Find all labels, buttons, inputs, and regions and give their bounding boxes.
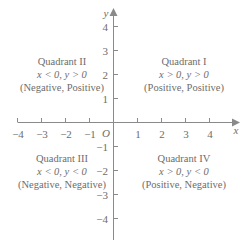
quadrant-4-math: x > 0, y < 0 [142,165,226,178]
x-tick-label--1: −1 [84,129,96,140]
quadrant-1-name: Quadrant I [144,55,224,68]
x-tick-label--3: −3 [36,129,48,140]
x-tick-label-4: 4 [207,129,213,140]
quadrant-1-signs: (Positive, Positive) [144,81,224,94]
quadrant-2-math: x < 0, y > 0 [20,68,104,81]
x-tick-label-1: 1 [135,129,141,140]
quadrant-3-math: x < 0, y < 0 [18,165,106,178]
x-tick-label--4: −4 [12,129,24,140]
y-axis-arrowhead [110,8,118,16]
y-tick-label--3: −3 [96,190,108,201]
quadrant-2-name: Quadrant II [20,55,104,68]
x-axis-label: x [234,125,239,136]
y-tick-label--4: −4 [96,214,108,225]
quadrant-2-annotation: Quadrant II x < 0, y > 0 (Negative, Posi… [20,55,104,94]
quadrant-4-name: Quadrant IV [142,152,226,165]
origin-label: O [102,128,110,139]
quadrant-4-signs: (Positive, Negative) [142,178,226,191]
quadrant-4-annotation: Quadrant IV x > 0, y < 0 (Positive, Nega… [142,152,226,191]
quadrant-1-annotation: Quadrant I x > 0, y > 0 (Positive, Posit… [144,55,224,94]
quadrant-3-name: Quadrant III [18,152,106,165]
quadrant-3-signs: (Negative, Negative) [18,178,106,191]
quadrant-3-annotation: Quadrant III x < 0, y < 0 (Negative, Neg… [18,152,106,191]
x-tick-label-3: 3 [183,129,189,140]
y-tick-label-4: 4 [103,22,109,33]
axes-svg [0,0,246,246]
quadrant-1-math: x > 0, y > 0 [144,68,224,81]
quadrant-2-signs: (Negative, Positive) [20,81,104,94]
y-tick-label-1: 1 [103,94,109,105]
coordinate-plane: −4 −3 −2 −1 1 2 3 4 4 3 2 1 −1 −2 −3 −4 … [0,0,246,246]
x-tick-label-2: 2 [159,129,165,140]
y-axis-label: y [104,8,109,19]
x-tick-label--2: −2 [60,129,72,140]
